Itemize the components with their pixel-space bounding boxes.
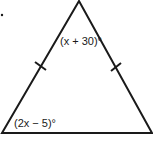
apex-angle-label: (x + 30)° (60, 36, 102, 47)
stray-dot (1, 14, 3, 16)
triangle (2, 1, 152, 133)
base-left-angle-label: (2x − 5)° (14, 118, 56, 129)
